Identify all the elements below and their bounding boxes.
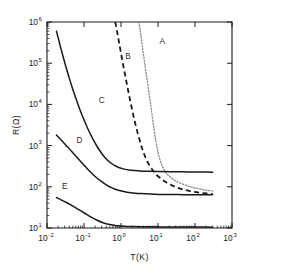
y-tick-label-exponent: 4 [39, 98, 43, 104]
curve-B [115, 22, 212, 194]
x-tick-label: 10 [112, 233, 122, 243]
y-tick-label: 10 [29, 17, 39, 27]
curves-group [56, 22, 212, 227]
y-tick-label-exponent: 3 [39, 139, 43, 145]
x-tick-label: 10 [149, 233, 159, 243]
curve-A [139, 22, 213, 191]
y-tick-label-exponent: 5 [39, 57, 43, 63]
x-tick-label-exponent: 3 [234, 232, 238, 238]
x-tick-labels: 10-210-1100101102103 [38, 232, 237, 243]
curve-C [56, 31, 212, 172]
x-tick-label: 10 [186, 233, 196, 243]
y-tick-label: 10 [29, 141, 39, 151]
x-tick-label-exponent: 1 [160, 232, 163, 238]
x-axis-title: T(K) [130, 252, 148, 262]
y-axis-ticks [47, 22, 232, 228]
resistance-vs-temperature-chart: 10-210-1100101102103101102103104105106T(… [0, 0, 282, 274]
x-tick-label-exponent: -1 [86, 232, 91, 238]
y-tick-label: 10 [29, 58, 39, 68]
curve-label-B: B [125, 52, 131, 61]
x-tick-label-exponent: 2 [197, 232, 200, 238]
y-tick-label-exponent: 6 [39, 16, 43, 22]
x-tick-label-exponent: -2 [49, 232, 54, 238]
y-tick-label: 10 [29, 99, 39, 109]
curve-label-D: D [76, 136, 82, 145]
curve-label-C: C [99, 96, 105, 105]
y-tick-label-exponent: 2 [39, 181, 42, 187]
y-tick-label: 10 [29, 182, 39, 192]
curve-E [56, 198, 212, 228]
curve-label-A: A [159, 37, 165, 46]
curve-labels: ABCDE [62, 37, 166, 192]
x-axis-ticks [47, 22, 232, 228]
y-axis-title: R(Ω) [11, 115, 21, 135]
y-tick-label-exponent: 1 [39, 222, 42, 228]
x-tick-label-exponent: 0 [123, 232, 127, 238]
x-tick-label: 10 [38, 233, 48, 243]
x-tick-label: 10 [223, 233, 233, 243]
y-tick-labels: 101102103104105106 [29, 16, 43, 233]
y-tick-label: 10 [29, 223, 39, 233]
axis-frame [47, 22, 232, 228]
plot-frame [47, 22, 232, 228]
curve-label-E: E [62, 182, 68, 191]
x-tick-label: 10 [75, 233, 85, 243]
